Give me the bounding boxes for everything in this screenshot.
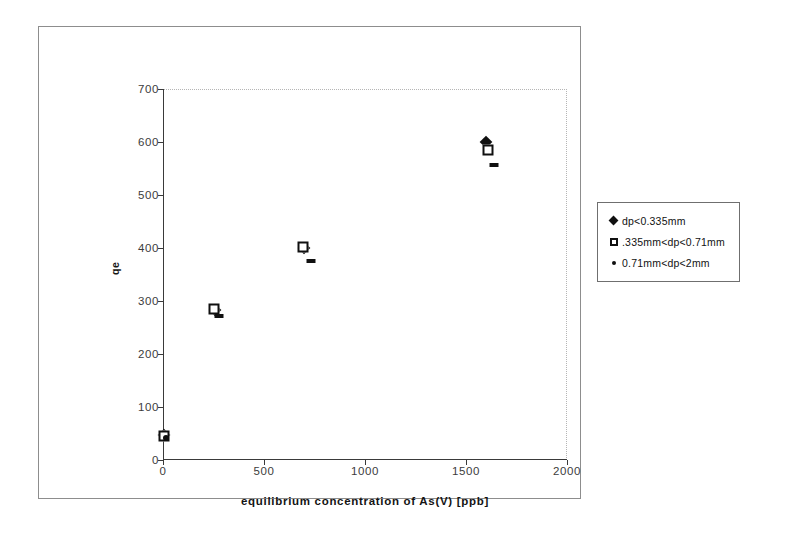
x-tick-label: 2000 xyxy=(553,465,581,477)
y-tick-label: 0 xyxy=(152,454,159,466)
y-tick-label: 200 xyxy=(138,348,159,360)
data-point xyxy=(208,303,219,314)
plot-area: 0100200300400500600700 0500100015002000 xyxy=(163,89,567,460)
plot-frame-right xyxy=(566,89,567,460)
legend-marker-icon xyxy=(605,261,622,265)
y-tick-label: 500 xyxy=(138,189,159,201)
legend-item: 0.71mm<dp<2mm xyxy=(605,252,733,273)
y-axis-line xyxy=(163,89,164,460)
data-point xyxy=(483,144,494,155)
legend-item-label: dp<0.335mm xyxy=(622,215,686,227)
y-tick-label: 300 xyxy=(138,295,159,307)
y-tick-label: 100 xyxy=(138,401,159,413)
y-tick-label: 400 xyxy=(138,242,159,254)
legend-marker-icon xyxy=(605,238,622,246)
x-tick-label: 1500 xyxy=(452,465,480,477)
data-point xyxy=(307,259,316,263)
y-axis-title: qe xyxy=(109,262,121,275)
y-tick-label: 600 xyxy=(138,136,159,148)
diamond-marker-icon xyxy=(609,216,619,226)
chart-legend: dp<0.335mm.335mm<dp<0.71mm0.71mm<dp<2mm xyxy=(597,202,740,282)
data-point xyxy=(214,314,223,318)
x-tick-label: 0 xyxy=(160,465,167,477)
data-point xyxy=(298,241,309,252)
x-axis-title: equilibrium concentration of As(V) [ppb] xyxy=(163,495,567,507)
legend-marker-icon xyxy=(605,217,622,224)
square-marker-icon xyxy=(610,238,618,246)
legend-item-label: 0.71mm<dp<2mm xyxy=(622,257,710,269)
data-point xyxy=(490,163,499,167)
legend-item: .335mm<dp<0.71mm xyxy=(605,231,733,252)
data-point xyxy=(163,435,169,441)
dot-marker-icon xyxy=(612,261,616,265)
plot-frame-top xyxy=(163,89,567,90)
x-tick-label: 1000 xyxy=(351,465,379,477)
x-tick-label: 500 xyxy=(254,465,275,477)
legend-item: dp<0.335mm xyxy=(605,210,733,231)
scanned-page-border: qe 0100200300400500600700 05001000150020… xyxy=(38,26,581,499)
y-tick-label: 700 xyxy=(138,83,159,95)
legend-item-label: .335mm<dp<0.71mm xyxy=(622,236,725,248)
